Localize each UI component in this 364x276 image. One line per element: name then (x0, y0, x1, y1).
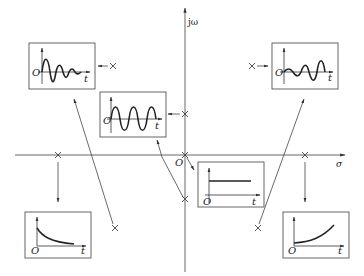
pole-marker-left-upper (110, 63, 116, 69)
pole-arrows (58, 66, 305, 224)
inset-constant-origin: O (203, 197, 211, 207)
arrow-origin (187, 158, 194, 170)
inset-damped-t: t (84, 74, 88, 84)
pole-marker-left-lower (112, 225, 118, 231)
inset-growing-origin: O (275, 68, 283, 78)
pole-marker-right-lower (255, 225, 261, 231)
inset-decay-origin: O (31, 246, 39, 256)
inset-decay-t: t (81, 246, 85, 256)
s-plane-diagram (0, 0, 364, 276)
pole-marker-right-upper (249, 63, 255, 69)
inset-growth-origin: O (288, 246, 296, 256)
inset-growing-t: t (328, 73, 332, 83)
axis-label-sigma: σ (336, 160, 342, 169)
arrow-imag-lower-head (157, 140, 162, 157)
inset-damped-origin: O (32, 68, 40, 78)
inset-sustained-t: t (155, 121, 159, 131)
axis-label-jw: jω (188, 18, 198, 27)
arrow-right-lower (259, 99, 304, 224)
origin-label: O (175, 158, 183, 168)
inset-growth-t: t (338, 246, 342, 256)
inset-sustained-origin: O (103, 116, 111, 126)
inset-constant-t: t (252, 197, 256, 207)
